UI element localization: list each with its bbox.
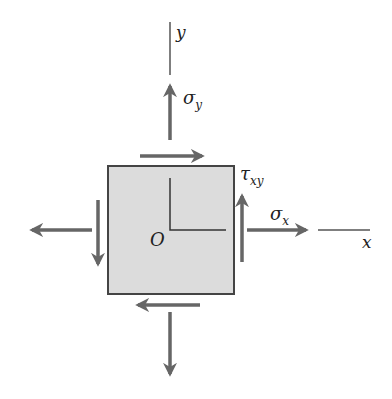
tau-xy-label: τxy (240, 163, 264, 188)
sigma-x-label: σx (270, 203, 289, 228)
origin-label: O (150, 229, 165, 250)
stress-element-diagram: y x O σy σx τxy (0, 0, 392, 399)
sigma-y-label: σy (183, 87, 202, 112)
x-axis-label: x (362, 232, 372, 252)
y-axis-label: y (175, 22, 186, 42)
